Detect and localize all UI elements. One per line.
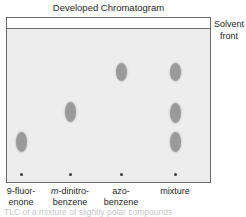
figure-caption-text: TLC of a mixture of slightly polar compo… (4, 209, 244, 217)
origin-dot-lane-mixture (174, 173, 177, 176)
solvent-band (7, 18, 210, 28)
lane-label-line2: benzene (81, 197, 161, 208)
solvent-front-label-line1: Solvent (214, 19, 244, 29)
tlc-plate (6, 17, 211, 183)
solvent-front-line (7, 28, 210, 29)
spot-lane-m-dinitrobenzene-0 (65, 102, 76, 122)
lane-label-line1: mixture (135, 186, 215, 197)
origin-dot-lane-m-dinitrobenzene (69, 173, 72, 176)
origin-dot-lane-9-fluorenone (20, 173, 23, 176)
solvent-front-label: Solvent front (214, 19, 246, 42)
spot-lane-9-fluorenone-0 (16, 132, 27, 152)
solvent-front-label-line2: front (214, 31, 244, 43)
spot-lane-mixture-2 (170, 132, 181, 152)
spot-lane-azobenzene-0 (116, 63, 127, 81)
figure-caption-clipped: TLC of a mixture of slightly polar compo… (4, 209, 244, 217)
spot-lane-mixture-1 (170, 103, 181, 123)
lane-label-italic-prefix: m (51, 186, 59, 196)
page-title: Developed Chromatogram (6, 2, 211, 14)
origin-dot-lane-azobenzene (120, 173, 123, 176)
spot-lane-mixture-0 (170, 63, 181, 81)
lane-label-lane-mixture: mixture (135, 186, 215, 197)
